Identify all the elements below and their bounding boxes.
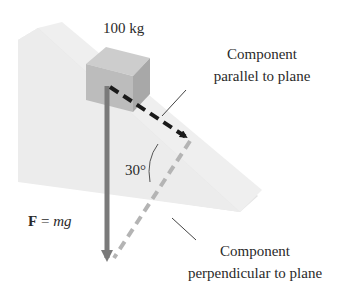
parallel-label-line2: parallel to plane — [214, 68, 311, 84]
force-label: F = mg — [28, 213, 72, 229]
perpendicular-label-line2: perpendicular to plane — [188, 265, 322, 281]
perpendicular-label-line1: Component — [220, 243, 291, 259]
parallel-label-line1: Component — [227, 46, 298, 62]
perpendicular-leader-line — [172, 218, 196, 240]
force-equals: = — [37, 213, 53, 229]
mass-label: 100 kg — [103, 20, 145, 36]
force-expression: mg — [53, 213, 72, 229]
block-100kg — [86, 47, 150, 112]
angle-label: 30° — [125, 162, 146, 178]
inclined-plane — [18, 22, 262, 212]
force-symbol: F — [28, 213, 37, 229]
parallel-leader-line — [162, 90, 186, 116]
inclined-plane-diagram: 100 kg Component parallel to plane 30° F… — [0, 0, 343, 303]
